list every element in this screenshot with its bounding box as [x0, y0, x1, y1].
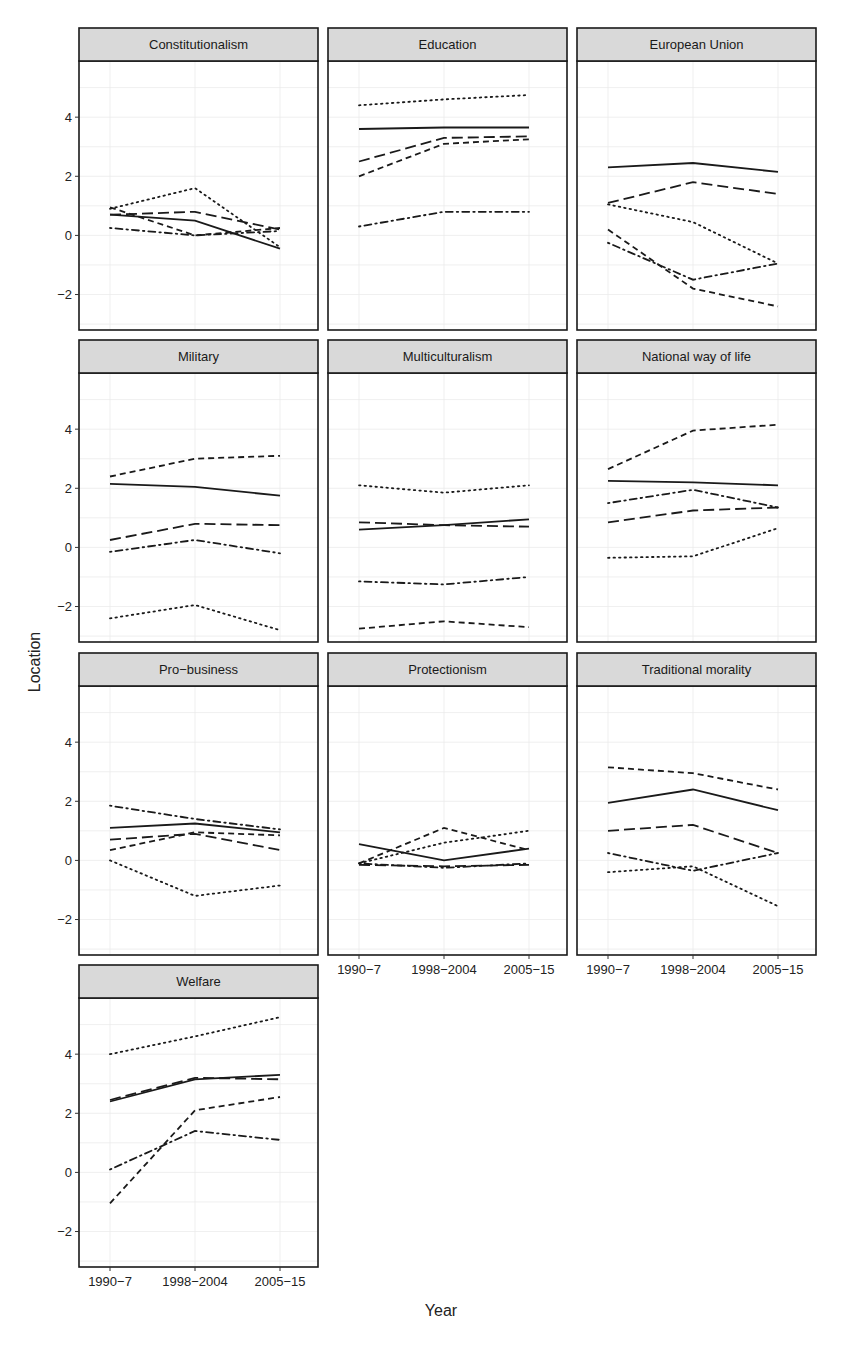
facet-panel: European Union — [577, 28, 816, 330]
y-tick-label: 0 — [65, 228, 72, 243]
facet-panel: National way of life — [577, 340, 816, 642]
y-tick-label: −2 — [57, 599, 72, 614]
facet-title: Constitutionalism — [149, 37, 248, 52]
y-tick-label: −2 — [57, 912, 72, 927]
y-tick-label: 2 — [65, 1106, 72, 1121]
facet-title: National way of life — [642, 349, 751, 364]
x-tick-label: 1998−2004 — [660, 962, 725, 977]
y-tick-label: 4 — [65, 110, 72, 125]
x-tick-label: 2005−15 — [753, 962, 804, 977]
y-tick-label: 4 — [65, 1047, 72, 1062]
x-tick-label: 1990−7 — [337, 962, 381, 977]
facet-panel: Education — [328, 28, 567, 330]
y-axis-title: Location — [26, 632, 43, 693]
facet-panel: Welfare420−21990−71998−20042005−15 — [57, 965, 318, 1289]
y-tick-label: −2 — [57, 287, 72, 302]
x-tick-label: 2005−15 — [504, 962, 555, 977]
facet-panel: Multiculturalism — [328, 340, 567, 642]
y-tick-label: 0 — [65, 1165, 72, 1180]
y-tick-label: 4 — [65, 735, 72, 750]
y-tick-label: 2 — [65, 169, 72, 184]
facet-title: Multiculturalism — [403, 349, 493, 364]
facet-panel: Military420−2 — [57, 340, 318, 642]
facet-title: Pro−business — [159, 662, 239, 677]
facet-panels: Constitutionalism420−2EducationEuropean … — [57, 28, 816, 1289]
facet-panel: Traditional morality1990−71998−20042005−… — [577, 653, 816, 977]
facet-title: Military — [178, 349, 220, 364]
y-tick-label: 4 — [65, 422, 72, 437]
facet-title: Education — [419, 37, 477, 52]
x-tick-label: 1998−2004 — [162, 1274, 227, 1289]
facet-panel: Protectionism1990−71998−20042005−15 — [328, 653, 567, 977]
y-tick-label: 2 — [65, 481, 72, 496]
y-tick-label: 2 — [65, 794, 72, 809]
y-tick-label: 0 — [65, 853, 72, 868]
facet-title: Welfare — [176, 974, 221, 989]
facet-panel: Pro−business420−2 — [57, 653, 318, 955]
faceted-line-chart: Constitutionalism420−2EducationEuropean … — [0, 0, 842, 1351]
y-tick-label: −2 — [57, 1224, 72, 1239]
x-tick-label: 1990−7 — [586, 962, 630, 977]
x-tick-label: 1998−2004 — [411, 962, 476, 977]
facet-title: Traditional morality — [642, 662, 752, 677]
facet-panel: Constitutionalism420−2 — [57, 28, 318, 330]
y-tick-label: 0 — [65, 540, 72, 555]
facet-title: Protectionism — [408, 662, 487, 677]
x-tick-label: 1990−7 — [88, 1274, 132, 1289]
facet-title: European Union — [650, 37, 744, 52]
x-axis-title: Year — [425, 1302, 458, 1319]
x-tick-label: 2005−15 — [255, 1274, 306, 1289]
